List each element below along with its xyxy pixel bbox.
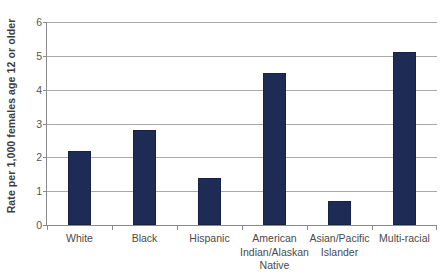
x-tick-label-line: Native: [235, 259, 314, 273]
gridline: [47, 90, 437, 91]
gridline: [47, 157, 437, 158]
gridline: [47, 124, 437, 125]
x-tick-mark: [372, 225, 373, 230]
x-tick-label: Multi-racial: [365, 232, 444, 246]
x-tick-mark: [47, 225, 48, 230]
gridline: [47, 191, 437, 192]
x-axis-ticks: [47, 225, 437, 230]
x-tick-mark: [307, 225, 308, 230]
gridline: [47, 56, 437, 57]
x-tick-mark: [242, 225, 243, 230]
x-tick-mark: [112, 225, 113, 230]
x-axis-tick-labels: WhiteBlackHispanicAmericanIndian/Alaskan…: [47, 232, 437, 276]
y-tick-label: 1: [24, 186, 42, 197]
y-tick-label: 0: [24, 220, 42, 231]
x-tick-mark: [436, 225, 437, 230]
y-tick-label: 2: [24, 152, 42, 163]
x-tick-label-line: Islander: [300, 246, 379, 260]
bar-chart-figure: Rate per 1,000 females age 12 or older 0…: [0, 0, 446, 276]
y-tick-label: 4: [24, 84, 42, 95]
y-tick-label: 6: [24, 17, 42, 28]
x-tick-mark: [177, 225, 178, 230]
y-tick-label: 5: [24, 51, 42, 62]
bar: [133, 130, 156, 225]
bar: [68, 151, 91, 225]
gridline: [47, 22, 437, 23]
bar: [263, 73, 286, 225]
y-tick-label: 3: [24, 118, 42, 129]
bar: [198, 178, 221, 225]
bar: [328, 201, 351, 225]
bar: [393, 52, 416, 225]
x-tick-label-line: Multi-racial: [365, 232, 444, 246]
plot-area: [47, 22, 437, 225]
